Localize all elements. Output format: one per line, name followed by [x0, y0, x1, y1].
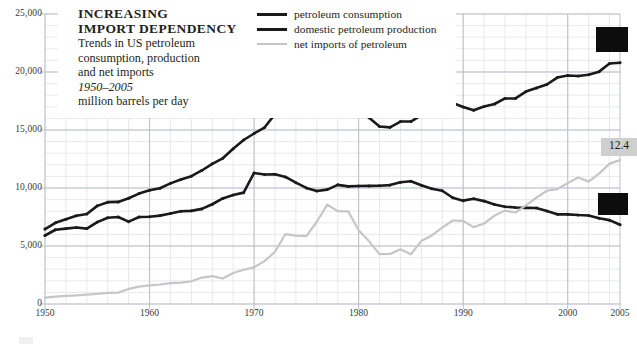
- data-point: [75, 226, 78, 229]
- data-point: [179, 178, 182, 181]
- data-point: [608, 62, 611, 65]
- x-axis-tick-label: 2005: [611, 309, 630, 319]
- page-title-line-2: IMPORT DEPENDENCY: [78, 21, 278, 36]
- legend-swatch-icon: [257, 13, 287, 16]
- data-point: [556, 76, 559, 79]
- data-point: [242, 191, 245, 194]
- data-point: [75, 214, 78, 217]
- data-point: [378, 125, 381, 128]
- data-point: [598, 217, 601, 220]
- data-point: [274, 173, 277, 176]
- data-point: [127, 220, 130, 223]
- data-point: [138, 192, 141, 195]
- data-point: [54, 221, 57, 224]
- data-point: [483, 200, 486, 203]
- data-point: [556, 213, 559, 216]
- data-point: [106, 216, 109, 219]
- data-point: [566, 213, 569, 216]
- data-point: [263, 126, 266, 129]
- data-point: [253, 171, 256, 174]
- data-point: [368, 184, 371, 187]
- chart-legend: petroleum consumptiondomestic petroleum …: [257, 7, 447, 52]
- data-point: [232, 147, 235, 150]
- data-point: [493, 103, 496, 106]
- data-point: [577, 75, 580, 78]
- x-axis-tick-label: 1950: [36, 309, 55, 319]
- data-point: [263, 173, 266, 176]
- data-point: [200, 169, 203, 172]
- subtitle-line-3: and net imports: [78, 65, 278, 80]
- data-point: [619, 223, 622, 226]
- data-point: [504, 97, 507, 100]
- data-point: [169, 212, 172, 215]
- x-axis-tick-label: 1960: [140, 309, 159, 319]
- series-net-imports-of-petroleum: [45, 160, 620, 298]
- y-axis-tick-label: 20,000: [2, 67, 42, 77]
- data-point: [96, 204, 99, 207]
- data-point: [587, 73, 590, 76]
- x-axis-tick-label: 1980: [349, 309, 368, 319]
- data-point: [96, 221, 99, 224]
- data-point: [545, 210, 548, 213]
- data-point: [587, 214, 590, 217]
- data-point: [305, 186, 308, 189]
- data-point: [566, 74, 569, 77]
- data-point: [221, 197, 224, 200]
- data-point: [389, 126, 392, 129]
- data-point: [85, 212, 88, 215]
- data-point: [221, 157, 224, 160]
- legend-swatch-icon: [257, 28, 287, 31]
- x-axis: 1950196019701980199020002005: [0, 309, 635, 331]
- data-point: [54, 228, 57, 231]
- y-axis-tick-label: 15,000: [2, 125, 42, 135]
- data-point: [44, 234, 47, 237]
- data-point: [409, 120, 412, 123]
- data-point: [200, 207, 203, 210]
- data-point: [535, 87, 538, 90]
- data-point: [399, 181, 402, 184]
- y-axis-tick-label: 25,000: [2, 9, 42, 19]
- data-point: [148, 215, 151, 218]
- data-point: [117, 216, 120, 219]
- y-axis-tick-label: 5,000: [2, 241, 42, 251]
- title-block: INCREASING IMPORT DEPENDENCY Trends in U…: [78, 6, 278, 109]
- data-point: [451, 196, 454, 199]
- data-point: [64, 218, 67, 221]
- data-point: [190, 209, 193, 212]
- data-point: [483, 105, 486, 108]
- x-axis-tick-label: 2000: [558, 309, 577, 319]
- data-point: [253, 132, 256, 135]
- data-point: [493, 203, 496, 206]
- subtitle-units: million barrels per day: [78, 94, 278, 109]
- subtitle-line-2: consumption, production: [78, 51, 278, 66]
- data-point: [409, 180, 412, 183]
- data-point: [577, 214, 580, 217]
- data-point: [336, 183, 339, 186]
- legend-label: petroleum consumption: [294, 8, 402, 20]
- data-point: [242, 138, 245, 141]
- series-line: [45, 173, 620, 236]
- data-point: [159, 187, 162, 190]
- subtitle-line-1: Trends in US petroleum: [78, 36, 278, 51]
- data-point: [169, 182, 172, 185]
- data-point: [619, 61, 622, 64]
- legend-item: petroleum consumption: [257, 7, 447, 22]
- data-point: [430, 187, 433, 190]
- data-point: [378, 184, 381, 187]
- data-point: [545, 83, 548, 86]
- data-point: [504, 205, 507, 208]
- data-point: [315, 190, 318, 193]
- legend-item: net imports of petroleum: [257, 37, 447, 52]
- data-point: [211, 162, 214, 165]
- data-point: [211, 203, 214, 206]
- legend-item: domestic petroleum production: [257, 22, 447, 37]
- data-point: [462, 105, 465, 108]
- data-point: [64, 227, 67, 230]
- series-line: [45, 160, 620, 298]
- data-point: [179, 210, 182, 213]
- page-title-line-1: INCREASING: [78, 6, 278, 21]
- data-point: [106, 201, 109, 204]
- data-point: [326, 188, 329, 191]
- page-artifact: [19, 337, 33, 344]
